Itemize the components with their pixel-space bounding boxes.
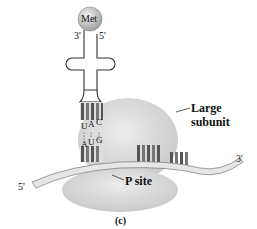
- anticodon-base-3: C: [96, 117, 102, 127]
- met-label: Met: [81, 13, 97, 24]
- large-subunit-label-line1: Large: [191, 101, 222, 116]
- trna-5prime-label: 5': [99, 30, 106, 41]
- large-subunit-pointer: [176, 108, 190, 112]
- codon-base-3: G: [96, 135, 103, 145]
- mrna-3prime-label: 3': [236, 153, 243, 164]
- anticodon-base-2: A: [88, 119, 95, 129]
- codon-base-1: A: [81, 139, 88, 149]
- trna-3prime-label: 3': [74, 30, 81, 41]
- large-subunit-label-line2: subunit: [191, 115, 230, 130]
- panel-label: (c): [115, 215, 126, 226]
- codon-base-2: U: [88, 137, 95, 147]
- anticodon-base-1: U: [81, 121, 88, 131]
- translation-initiation-diagram: Met 3' 5' U A C A U G Large subunit P si…: [0, 0, 257, 229]
- mrna-5prime-label: 5': [18, 181, 25, 192]
- small-subunit: [62, 168, 178, 212]
- p-site-label: P site: [125, 174, 152, 189]
